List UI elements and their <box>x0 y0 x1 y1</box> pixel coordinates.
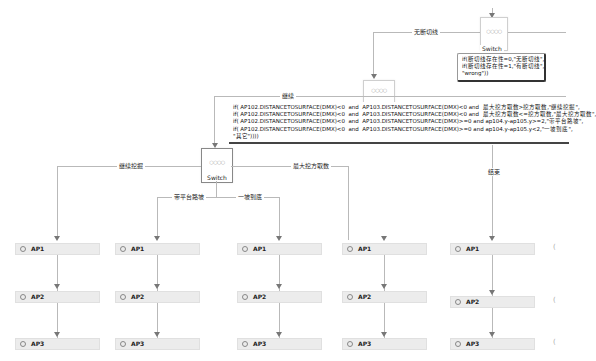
switch-expression-mid[interactable]: if( AP102.DISTANCETOSURFACE(DMX)<0 and A… <box>229 102 569 144</box>
switch-ports-icon: ○○○○ <box>486 28 501 34</box>
arrow-down-icon <box>154 284 160 289</box>
connector <box>214 96 566 97</box>
switch-node-mid[interactable]: ○○○○ <box>363 80 395 104</box>
arrow-down-icon <box>154 236 160 241</box>
connector <box>348 238 349 240</box>
edge-label-continue-dig: 继续挖掘 <box>117 162 145 170</box>
node-circle-icon <box>120 294 126 300</box>
arrow-down-icon <box>54 332 60 337</box>
arrow-down-icon <box>489 290 495 295</box>
node-ap1[interactable]: AP1 <box>115 243 200 255</box>
node-circle-icon <box>455 299 461 305</box>
node-circle-icon <box>242 246 248 252</box>
edge-label-one-slope: 一坡到底 <box>236 193 264 201</box>
node-circle-icon <box>347 341 353 347</box>
connector <box>57 166 58 238</box>
switch-label: Switch <box>202 174 232 181</box>
connector <box>492 250 493 340</box>
node-ap2[interactable]: AP2 <box>115 291 200 303</box>
node-ap1[interactable]: AP1 <box>237 243 322 255</box>
node-ap2[interactable]: AP2 <box>237 291 322 303</box>
connector <box>348 166 349 238</box>
arrow-down-icon <box>276 332 282 337</box>
node-circle-icon <box>347 246 353 252</box>
connector <box>373 32 374 75</box>
switch-label: Switch <box>480 45 504 53</box>
node-circle-icon <box>242 341 248 347</box>
node-ap2[interactable]: AP2 <box>342 291 427 303</box>
edge-label-end: 结束 <box>486 168 502 176</box>
node-ap3[interactable]: AP3 <box>450 338 535 350</box>
connector <box>231 166 349 167</box>
arrow-down-icon <box>489 332 495 337</box>
node-ap3[interactable]: AP3 <box>237 338 322 350</box>
node-ap3[interactable]: AP3 <box>15 338 100 350</box>
arrow-down-icon <box>371 74 377 79</box>
connector <box>157 197 158 238</box>
arrow-down-icon <box>54 236 60 241</box>
node-partial: ( <box>553 243 556 251</box>
edge-label-no-cut: 无断切线 <box>412 28 440 36</box>
connector <box>373 32 566 33</box>
node-partial: ( <box>553 296 556 304</box>
node-circle-icon <box>20 341 26 347</box>
node-ap1[interactable]: AP1 <box>342 243 427 255</box>
edge-label-max-dig: 最大挖方取数 <box>291 162 331 170</box>
arrow-down-icon <box>54 284 60 289</box>
switch-ports-icon: ○○○○ <box>209 159 224 165</box>
edge-label-bench-slope: 带平台路坡 <box>172 193 206 201</box>
node-ap2[interactable]: AP2 <box>15 291 100 303</box>
connector <box>279 197 280 238</box>
switch-expression-top[interactable]: if(断切线存在性=0,"无断切线", if(断切线存在性=1,"有断切线", … <box>457 53 546 82</box>
node-ap2[interactable]: AP2 <box>450 296 535 308</box>
node-circle-icon <box>20 294 26 300</box>
connector <box>214 96 215 146</box>
arrow-down-icon <box>276 236 282 241</box>
arrow-down-icon <box>381 332 387 337</box>
switch-ports-icon: ○○○○ <box>371 87 386 93</box>
node-ap1[interactable]: AP1 <box>450 243 535 255</box>
node-circle-icon <box>120 246 126 252</box>
node-circle-icon <box>20 246 26 252</box>
node-circle-icon <box>120 341 126 347</box>
connector <box>216 181 217 197</box>
node-circle-icon <box>242 294 248 300</box>
node-ap3[interactable]: AP3 <box>342 338 427 350</box>
arrow-down-icon <box>489 236 495 241</box>
arrow-down-icon <box>381 284 387 289</box>
node-circle-icon <box>455 246 461 252</box>
node-circle-icon <box>455 341 461 347</box>
arrow-down-icon <box>381 236 387 241</box>
connector <box>492 145 493 238</box>
node-ap1[interactable]: AP1 <box>15 243 100 255</box>
node-partial: ( <box>553 338 556 346</box>
node-ap3[interactable]: AP3 <box>115 338 200 350</box>
switch-node-main[interactable]: ○○○○ Switch <box>201 148 233 183</box>
arrow-down-icon <box>276 284 282 289</box>
edge-label-continue: 继续 <box>280 92 296 100</box>
node-circle-icon <box>347 294 353 300</box>
arrow-down-icon <box>154 332 160 337</box>
